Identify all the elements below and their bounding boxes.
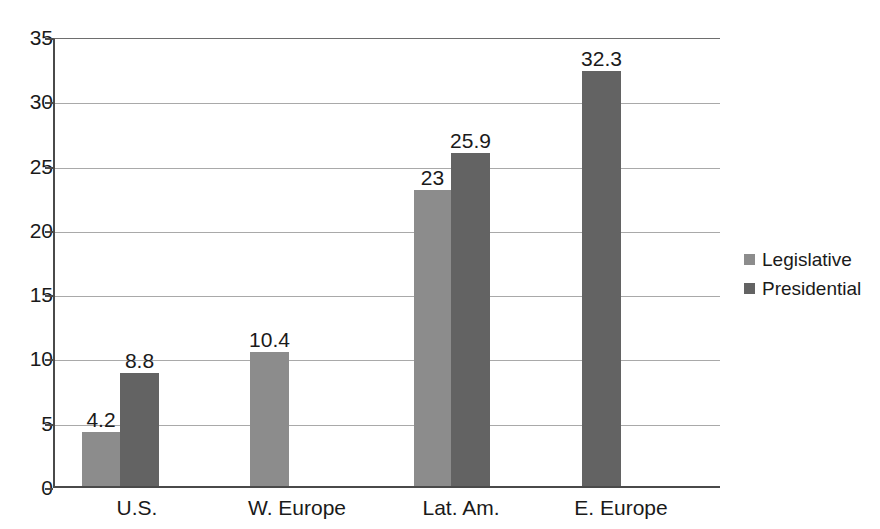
x-axis-category-label: U.S.: [117, 496, 158, 520]
y-axis-tick-mark: [45, 102, 53, 104]
legend-entry-legislative[interactable]: Legislative: [744, 245, 874, 274]
bar-value-label: 32.3: [581, 48, 622, 69]
legend-entry-presidential[interactable]: Presidential: [744, 274, 874, 303]
x-axis-category-label: Lat. Am.: [422, 496, 499, 520]
y-axis-tick-mark: [45, 359, 53, 361]
bar-value-label: 4.2: [86, 409, 115, 430]
bar-presidential-u-s: [120, 373, 159, 486]
bar-legislative-u-s: [82, 432, 120, 486]
legend-swatch-icon: [744, 254, 755, 265]
bar-value-label: 23: [421, 167, 444, 188]
bar-chart: 05101520253035 4.28.810.42325.932.3 U.S.…: [0, 0, 880, 529]
y-axis-tick-mark: [45, 488, 53, 490]
bar-value-label: 10.4: [249, 329, 290, 350]
y-axis-tick-mark: [45, 295, 53, 297]
y-axis-tick-mark: [45, 167, 53, 169]
y-axis-tick-mark: [45, 38, 53, 40]
x-axis-category-label: W. Europe: [248, 496, 346, 520]
legend-swatch-icon: [744, 283, 755, 294]
bar-presidential-e-europe: [582, 71, 621, 486]
bar-value-label: 8.8: [125, 350, 154, 371]
y-axis-tick-mark: [45, 231, 53, 233]
chart-legend: LegislativePresidential: [744, 245, 874, 303]
legend-label: Presidential: [762, 279, 861, 298]
bar-legislative-w-europe: [250, 352, 289, 486]
bar-value-label: 25.9: [450, 130, 491, 151]
bar-legislative-lat-am: [414, 190, 451, 486]
y-axis-tick-mark: [45, 424, 53, 426]
bar-presidential-lat-am: [451, 153, 490, 486]
legend-label: Legislative: [762, 250, 852, 269]
y-axis: 05101520253035: [0, 38, 53, 488]
x-axis-category-label: E. Europe: [574, 496, 667, 520]
plot-area: 4.28.810.42325.932.3: [53, 38, 720, 488]
